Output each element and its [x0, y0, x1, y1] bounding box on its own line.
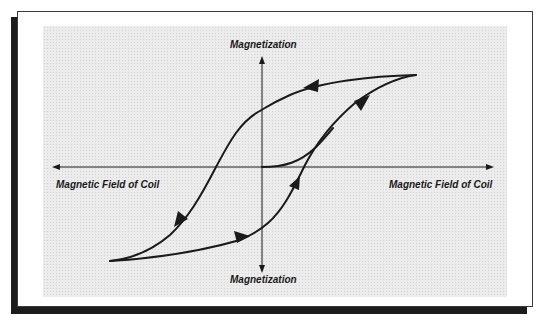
ascending-branch: [110, 75, 416, 261]
y-axis-top-label: Magnetization: [230, 39, 297, 50]
x-axis-left-arrow-icon: [52, 164, 60, 170]
x-axis-left-label: Magnetic Field of Coil: [56, 179, 159, 190]
y-axis-top-arrow-icon: [259, 56, 265, 64]
x-axis-right-label: Magnetic Field of Coil: [389, 179, 492, 190]
initial-magnetization-curve: [262, 128, 333, 167]
ascending-arrow-middle-icon: [289, 176, 300, 190]
descending-branch: [110, 75, 416, 261]
x-axis-right-arrow-icon: [486, 164, 494, 170]
y-axis-bottom-label: Magnetization: [230, 274, 297, 285]
y-axis-bottom-arrow-icon: [259, 265, 265, 273]
